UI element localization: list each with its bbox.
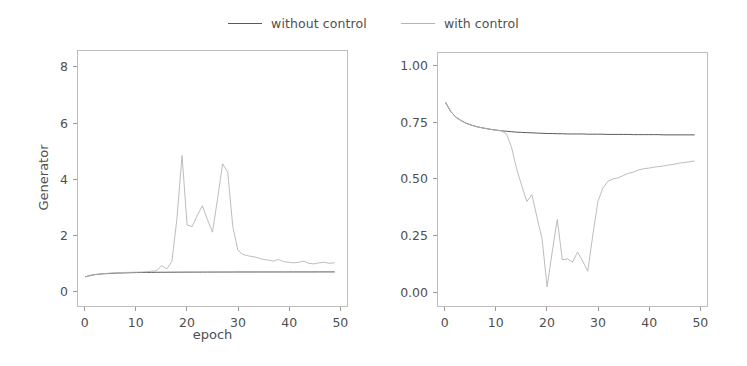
y-tick-label: 1.00: [400, 58, 433, 73]
y-tick-label: 0.25: [400, 228, 433, 243]
x-tick-label: 10: [488, 311, 504, 330]
x-axis-label-generator: epoch: [77, 327, 348, 342]
plot-area-generator: [77, 50, 348, 307]
y-tick-mark: [73, 235, 77, 236]
x-tick-label: 20: [539, 311, 555, 330]
y-tick-label: 4: [60, 172, 73, 187]
chart-panel-generator: 02468 01020304050 epoch Generator: [0, 0, 374, 366]
x-tick-label: 50: [692, 311, 708, 330]
chart-panel-discriminator: 0.000.250.500.751.00 01020304050 epoch D…: [373, 0, 747, 366]
series-line-with-control: [86, 156, 335, 277]
series-line-with-control: [446, 102, 695, 286]
y-tick-label: 0.75: [400, 115, 433, 130]
y-tick-label: 8: [60, 59, 73, 74]
plot-lines-discriminator: [438, 53, 707, 306]
y-tick-mark: [73, 179, 77, 180]
plot-area-discriminator: [437, 52, 708, 307]
y-axis-label-generator: Generator: [36, 118, 51, 238]
x-tick-label: 0: [441, 311, 449, 330]
y-tick-mark: [433, 178, 437, 179]
plot-lines-generator: [78, 51, 347, 306]
y-tick-mark: [433, 292, 437, 293]
y-tick-mark: [433, 235, 437, 236]
y-tick-mark: [73, 66, 77, 67]
y-tick-label: 2: [60, 228, 73, 243]
x-tick-label: 40: [641, 311, 657, 330]
x-tick-label: 30: [590, 311, 606, 330]
y-tick-mark: [73, 123, 77, 124]
y-tick-label: 0.50: [400, 171, 433, 186]
y-tick-label: 0.00: [400, 285, 433, 300]
y-tick-label: 0: [60, 284, 73, 299]
series-line-without-control: [446, 102, 695, 134]
y-tick-mark: [433, 65, 437, 66]
y-tick-label: 6: [60, 116, 73, 131]
y-tick-mark: [433, 122, 437, 123]
y-tick-mark: [73, 291, 77, 292]
